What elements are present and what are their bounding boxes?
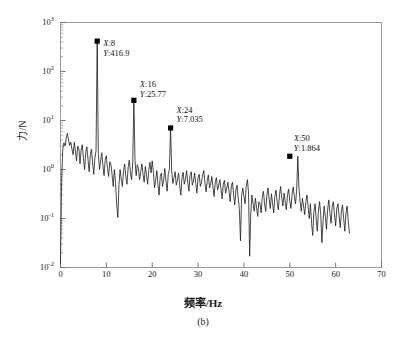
x-axis-ticks — [61, 263, 382, 268]
y-tick-label: 100 — [26, 164, 54, 174]
y-tick-mantissa: 10 — [42, 115, 51, 125]
peak-annotation: X:8Y:416.9 — [103, 39, 129, 58]
annotation-y-value: Y:25.77 — [140, 90, 166, 100]
peak-annotation: X:50Y:1.864 — [294, 134, 320, 153]
y-tick-exponent: 0 — [51, 162, 54, 169]
annotation-y-value: Y:7.035 — [177, 115, 203, 125]
peak-annotation: X:24Y:7.035 — [177, 106, 203, 125]
y-tick-exponent: -1 — [49, 211, 54, 218]
y-tick-exponent: 2 — [51, 64, 54, 71]
y-tick-mantissa: 10 — [42, 164, 51, 174]
figure-caption: (b) — [0, 316, 406, 327]
annotation-y-value: Y:416.9 — [103, 49, 129, 59]
y-tick-mantissa: 10 — [40, 262, 49, 272]
y-tick-exponent: -2 — [49, 260, 54, 267]
y-tick-mantissa: 10 — [42, 66, 51, 76]
x-tick-label: 50 — [278, 269, 302, 279]
x-tick-label: 30 — [186, 269, 210, 279]
spectrum-plot — [0, 0, 406, 338]
y-tick-exponent: 3 — [51, 15, 54, 22]
x-tick-label: 70 — [370, 269, 394, 279]
y-tick-exponent: 1 — [51, 113, 54, 120]
x-tick-label: 10 — [94, 269, 118, 279]
x-tick-label: 40 — [232, 269, 256, 279]
y-tick-mantissa: 10 — [40, 213, 49, 223]
y-tick-label: 103 — [26, 17, 54, 27]
y-tick-label: 10-1 — [26, 213, 54, 223]
y-axis-label: 力/N — [14, 127, 29, 141]
peak-annotation: X:16Y:25.77 — [140, 80, 166, 99]
annotation-y-value: Y:1.864 — [294, 144, 320, 154]
y-tick-label: 102 — [26, 66, 54, 76]
plot-frame — [61, 23, 382, 268]
x-tick-label: 20 — [140, 269, 164, 279]
x-tick-label: 0 — [49, 269, 73, 279]
y-tick-mantissa: 10 — [42, 17, 51, 27]
figure-panel: 10-210-1100101102103 010203040506070 X:8… — [0, 0, 406, 338]
y-tick-label: 101 — [26, 115, 54, 125]
x-axis-label: 频率/Hz — [0, 294, 406, 310]
x-tick-label: 60 — [324, 269, 348, 279]
